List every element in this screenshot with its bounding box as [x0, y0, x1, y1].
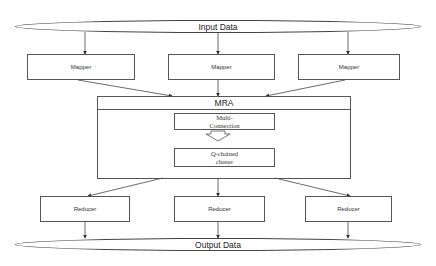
reducer-label: Reducer: [208, 206, 231, 212]
mapper-label: Mapper: [71, 64, 91, 70]
mapper-label: Mapper: [211, 64, 231, 70]
mra-title-label: MRA: [215, 98, 234, 108]
input-data-label: Input Data: [198, 22, 237, 32]
reducer-label: Reducer: [337, 206, 360, 212]
output-data-label: Output Data: [195, 240, 241, 250]
reducer-label: Reducer: [74, 206, 97, 212]
input-data-node: Input Data: [15, 20, 421, 33]
reducer-node-1: Reducer: [40, 196, 130, 222]
mapper-node-2: Mapper: [168, 54, 275, 80]
q-chained-cluster-node: Q-chained cluster: [174, 148, 275, 167]
reducer-node-3: Reducer: [305, 196, 392, 222]
q-chained-line2: cluster: [216, 158, 233, 165]
mapper-node-3: Mapper: [298, 54, 400, 80]
output-data-node: Output Data: [15, 238, 421, 251]
q-chained-line1: Q-chained: [211, 150, 238, 157]
mra-title: MRA: [98, 97, 350, 110]
multi-connection-line1: Multi-: [216, 114, 233, 121]
mapper-label: Mapper: [339, 64, 359, 70]
reducer-node-2: Reducer: [174, 196, 265, 222]
multi-connection-line2: Connection: [210, 122, 240, 129]
multi-connection-node: Multi- Connection: [174, 113, 275, 130]
mapper-node-1: Mapper: [27, 54, 135, 80]
